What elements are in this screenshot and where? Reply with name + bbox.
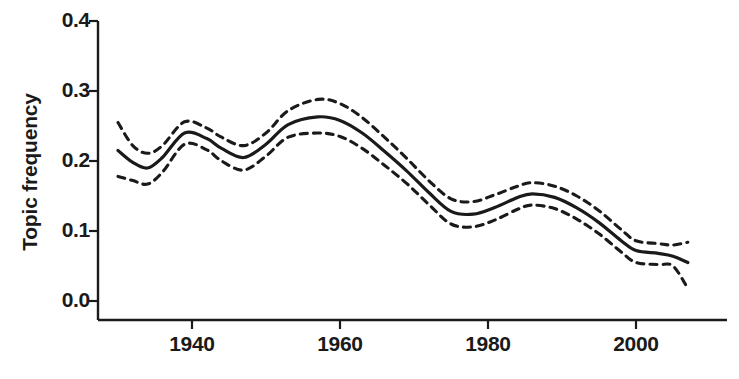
plot-area [0,0,739,379]
x-tick-marks [192,320,636,329]
y-tick-marks [89,21,98,301]
topic-frequency-line [118,117,688,263]
axis-lines [98,21,727,320]
chart-container: Topic frequency 0.4 0.3 0.2 0.1 0.0 1940… [0,0,739,379]
